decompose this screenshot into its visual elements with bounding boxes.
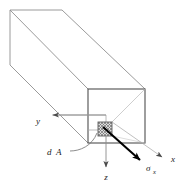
y-axis-label: y xyxy=(35,116,40,126)
x-axis-label: x xyxy=(170,154,175,164)
area-element-label: d A xyxy=(47,147,62,157)
stress-sigma-symbol: σ xyxy=(146,163,151,173)
stress-label: σ x xyxy=(146,163,156,175)
prism-top-right-edge xyxy=(62,10,145,89)
figure-container: y z x d A σ x xyxy=(0,0,187,194)
area-element-d: d xyxy=(47,147,52,157)
area-element-A: A xyxy=(55,147,62,157)
stress-subscript-x: x xyxy=(152,168,156,175)
stress-element-diagram: y z x d A σ x xyxy=(0,0,187,194)
z-axis-label: z xyxy=(103,172,108,182)
